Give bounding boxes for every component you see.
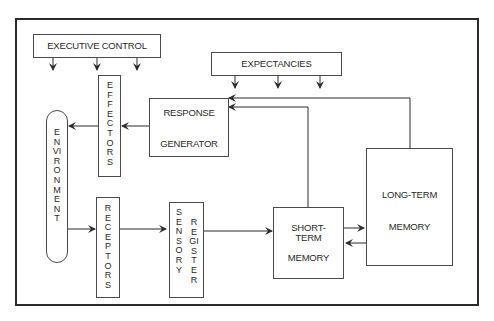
long-term-memory-box: LONG-TERM MEMORY xyxy=(366,148,453,266)
ltm-label-1: LONG-TERM xyxy=(367,189,452,200)
expectancies-box: EXPECTANCIES xyxy=(211,52,342,76)
effectors-box: EFFECTORS xyxy=(98,75,121,177)
receptors-box: RECEPTORS xyxy=(96,197,120,298)
short-term-memory-box: SHORT- TERM MEMORY xyxy=(273,207,344,279)
stm-label-3: MEMORY xyxy=(274,252,343,263)
expectancies-label: EXPECTANCIES xyxy=(212,58,341,69)
environment-box: ENVIRONMENT xyxy=(46,110,68,263)
executive-control-label: EXECUTIVE CONTROL xyxy=(34,40,160,51)
environment-label: ENVIRONMENT xyxy=(52,128,62,224)
response-generator-box: RESPONSE GENERATOR xyxy=(149,98,229,157)
stm-label-2: TERM xyxy=(274,232,343,243)
register-label: REGISTER xyxy=(189,218,199,285)
receptors-label: RECEPTORS xyxy=(103,204,113,290)
ltm-label-2: MEMORY xyxy=(367,221,452,232)
sensory-label: SENSORY xyxy=(174,208,184,275)
response-generator-label-2: GENERATOR xyxy=(150,138,228,149)
response-generator-label-1: RESPONSE xyxy=(150,107,228,118)
effectors-label: EFFECTORS xyxy=(105,81,115,167)
sensory-register-box: SENSORY REGISTER xyxy=(169,202,204,298)
executive-control-box: EXECUTIVE CONTROL xyxy=(33,34,161,58)
diagram: EXECUTIVE CONTROL EXPECTANCIES EFFECTORS… xyxy=(0,0,494,321)
